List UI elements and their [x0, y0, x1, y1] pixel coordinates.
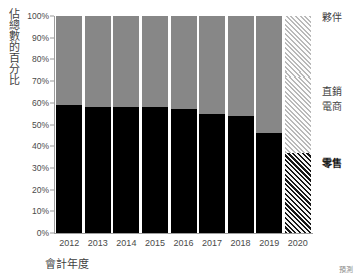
bar-segment-2013-零售[interactable] [85, 107, 111, 233]
bar-segment-2017-夥伴[interactable] [199, 16, 225, 57]
bar-segment-2014-電商[interactable] [113, 59, 139, 107]
bar-segment-2019-電商[interactable] [256, 68, 282, 133]
bar-2017[interactable] [199, 16, 225, 233]
bar-segment-2013-夥伴[interactable] [85, 16, 111, 55]
stacked-bar-chart: 佔總數的百分比 100% 90% 80% 70% 60% 50% 40% 30%… [0, 0, 357, 280]
bar-segment-2012-夥伴[interactable] [56, 16, 82, 53]
bar-2018[interactable] [228, 16, 254, 233]
bar-segment-2012-零售[interactable] [56, 105, 82, 233]
bar-segment-2018-夥伴[interactable] [228, 16, 254, 57]
y-tick-label: 100% [27, 11, 49, 21]
bar-segment-2020-電商[interactable] [285, 77, 311, 153]
y-tick-label: 50% [32, 120, 49, 130]
y-tick-label: 40% [32, 141, 49, 151]
bar-segment-2014-夥伴[interactable] [113, 16, 139, 55]
x-tick-label-2020: 2020 [278, 238, 318, 248]
bar-segment-2016-電商[interactable] [171, 62, 197, 110]
y-tick-label: 30% [32, 163, 49, 173]
bar-segment-2017-零售[interactable] [199, 114, 225, 233]
bar-segment-2016-夥伴[interactable] [171, 16, 197, 57]
bar-segment-2018-直銷[interactable] [228, 57, 254, 61]
y-tick-label: 90% [32, 33, 49, 43]
bar-segment-2020-夥伴[interactable] [285, 16, 311, 72]
legend-item-partners[interactable]: 夥伴 [322, 12, 342, 24]
y-tick-label: 10% [32, 206, 49, 216]
forecast-note: 預測 [339, 264, 353, 274]
y-axis-title: 佔總數的百分比 [2, 8, 20, 85]
x-axis-title: 會計年度 [45, 255, 89, 271]
y-tick-label: 0% [37, 228, 49, 238]
y-tick-label: 80% [32, 54, 49, 64]
legend-item-ecommerce[interactable]: 電商 [322, 101, 342, 113]
bar-segment-2015-夥伴[interactable] [142, 16, 168, 55]
bar-segment-2014-直銷[interactable] [113, 55, 139, 59]
bar-segment-2014-零售[interactable] [113, 107, 139, 233]
bar-segment-2012-電商[interactable] [56, 57, 82, 105]
bar-segment-2019-夥伴[interactable] [256, 16, 282, 64]
bar-segment-2017-電商[interactable] [199, 62, 225, 114]
plot-area [55, 16, 312, 233]
x-axis-line [54, 233, 313, 234]
bar-segment-2018-電商[interactable] [228, 62, 254, 116]
legend-item-direct-sales[interactable]: 直銷 [322, 86, 342, 98]
bar-2013[interactable] [85, 16, 111, 233]
bar-segment-2017-直銷[interactable] [199, 57, 225, 61]
bar-segment-2019-直銷[interactable] [256, 64, 282, 68]
bar-segment-2019-零售[interactable] [256, 133, 282, 233]
bar-2014[interactable] [113, 16, 139, 233]
bar-segment-2015-直銷[interactable] [142, 55, 168, 59]
bar-segment-2020-零售[interactable] [285, 153, 311, 233]
bar-2012[interactable] [56, 16, 82, 233]
bar-2015[interactable] [142, 16, 168, 233]
bar-2020[interactable] [285, 16, 311, 233]
legend-item-retail[interactable]: 零售 [322, 158, 342, 170]
bar-segment-2016-直銷[interactable] [171, 57, 197, 61]
bar-segment-2015-電商[interactable] [142, 59, 168, 107]
bar-segment-2013-電商[interactable] [85, 59, 111, 107]
bar-2019[interactable] [256, 16, 282, 233]
bar-segment-2013-直銷[interactable] [85, 55, 111, 59]
bar-segment-2018-零售[interactable] [228, 116, 254, 233]
y-tick-label: 60% [32, 98, 49, 108]
bar-segment-2016-零售[interactable] [171, 109, 197, 233]
y-tick-label: 70% [32, 76, 49, 86]
bar-segment-2020-直銷[interactable] [285, 72, 311, 76]
bar-segment-2012-直銷[interactable] [56, 53, 82, 57]
y-tick-label: 20% [32, 185, 49, 195]
bar-segment-2015-零售[interactable] [142, 107, 168, 233]
bar-2016[interactable] [171, 16, 197, 233]
